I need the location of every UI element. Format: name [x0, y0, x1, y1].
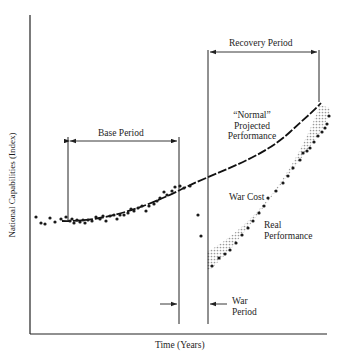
- data-point: [53, 220, 56, 223]
- data-point: [72, 221, 75, 224]
- data-point: [75, 218, 78, 221]
- data-point: [323, 126, 326, 129]
- data-point: [240, 233, 243, 236]
- data-point: [162, 190, 165, 193]
- data-point: [308, 146, 311, 149]
- data-point: [90, 219, 93, 222]
- data-point: [59, 217, 62, 220]
- data-point: [165, 193, 168, 196]
- data-point: [104, 219, 107, 222]
- data-point: [39, 221, 42, 224]
- data-point: [234, 241, 237, 244]
- data-point: [78, 220, 81, 223]
- data-point: [266, 196, 269, 199]
- data-points: [34, 114, 330, 267]
- data-point: [325, 122, 328, 125]
- base-arrowhead-left: [70, 139, 76, 143]
- data-point: [251, 219, 254, 222]
- data-point: [170, 189, 173, 192]
- data-point: [152, 202, 155, 205]
- x-axis-label: Time (Years): [155, 340, 205, 351]
- data-point: [298, 158, 301, 161]
- data-point: [140, 204, 143, 207]
- data-point: [182, 186, 185, 189]
- data-point: [228, 248, 231, 251]
- war-arrowhead-right: [210, 302, 216, 306]
- data-point: [257, 211, 260, 214]
- data-point: [126, 211, 129, 214]
- data-point: [210, 264, 213, 267]
- data-point: [246, 226, 249, 229]
- war-label: War: [232, 296, 257, 307]
- y-axis-label: National Capabilities (Index): [7, 115, 17, 255]
- data-point: [132, 209, 135, 212]
- recovery-arrowhead-right: [311, 50, 317, 54]
- data-point: [43, 222, 46, 225]
- data-point: [178, 184, 181, 187]
- data-point: [301, 151, 304, 154]
- data-point: [70, 217, 73, 220]
- normal-projected-label: “Normal” Projected Performance: [220, 110, 284, 142]
- data-point: [305, 149, 308, 152]
- real-label: Real: [264, 220, 313, 231]
- data-point: [262, 204, 265, 207]
- period-markers: [68, 50, 319, 324]
- data-point: [188, 184, 191, 187]
- real-performance-label: Real Performance: [264, 220, 313, 241]
- data-point: [327, 114, 330, 117]
- data-point: [94, 215, 97, 218]
- data-point: [147, 204, 150, 207]
- data-point: [34, 215, 37, 218]
- projected-label: Projected: [220, 121, 284, 132]
- data-point: [312, 140, 315, 143]
- data-point: [112, 213, 115, 216]
- recovery-period-label: Recovery Period: [229, 38, 293, 49]
- diagram-canvas: [0, 0, 337, 358]
- performance-label-2: Performance: [264, 231, 313, 242]
- data-point: [64, 215, 67, 218]
- data-point: [86, 218, 89, 221]
- period-label: Period: [232, 307, 257, 318]
- war-arrowhead-left: [171, 302, 177, 306]
- data-point: [115, 217, 118, 220]
- data-point: [98, 217, 101, 220]
- data-point: [223, 252, 226, 255]
- data-point: [129, 207, 132, 210]
- performance-label-1: Performance: [220, 131, 284, 142]
- data-point: [196, 213, 199, 216]
- data-point: [108, 214, 111, 217]
- data-point: [281, 181, 284, 184]
- data-point: [199, 234, 202, 237]
- data-point: [81, 218, 84, 221]
- data-point: [217, 256, 220, 259]
- data-point: [291, 166, 294, 169]
- data-point: [101, 214, 104, 217]
- data-point: [155, 199, 158, 202]
- war-period-label: War Period: [232, 296, 257, 317]
- base-period-label: Base Period: [98, 128, 144, 139]
- data-point: [122, 213, 125, 216]
- war-cost-label: War Cost: [228, 192, 265, 203]
- data-point: [118, 213, 121, 216]
- data-point: [158, 196, 161, 199]
- data-point: [173, 185, 176, 188]
- data-point: [316, 134, 319, 137]
- data-point: [286, 174, 289, 177]
- recovery-arrowhead-left: [210, 50, 216, 54]
- normal-label: “Normal”: [220, 110, 284, 121]
- data-point: [320, 130, 323, 133]
- data-point: [274, 189, 277, 192]
- data-point: [48, 216, 51, 219]
- data-point: [144, 209, 147, 212]
- data-point: [136, 206, 139, 209]
- data-point: [83, 221, 86, 224]
